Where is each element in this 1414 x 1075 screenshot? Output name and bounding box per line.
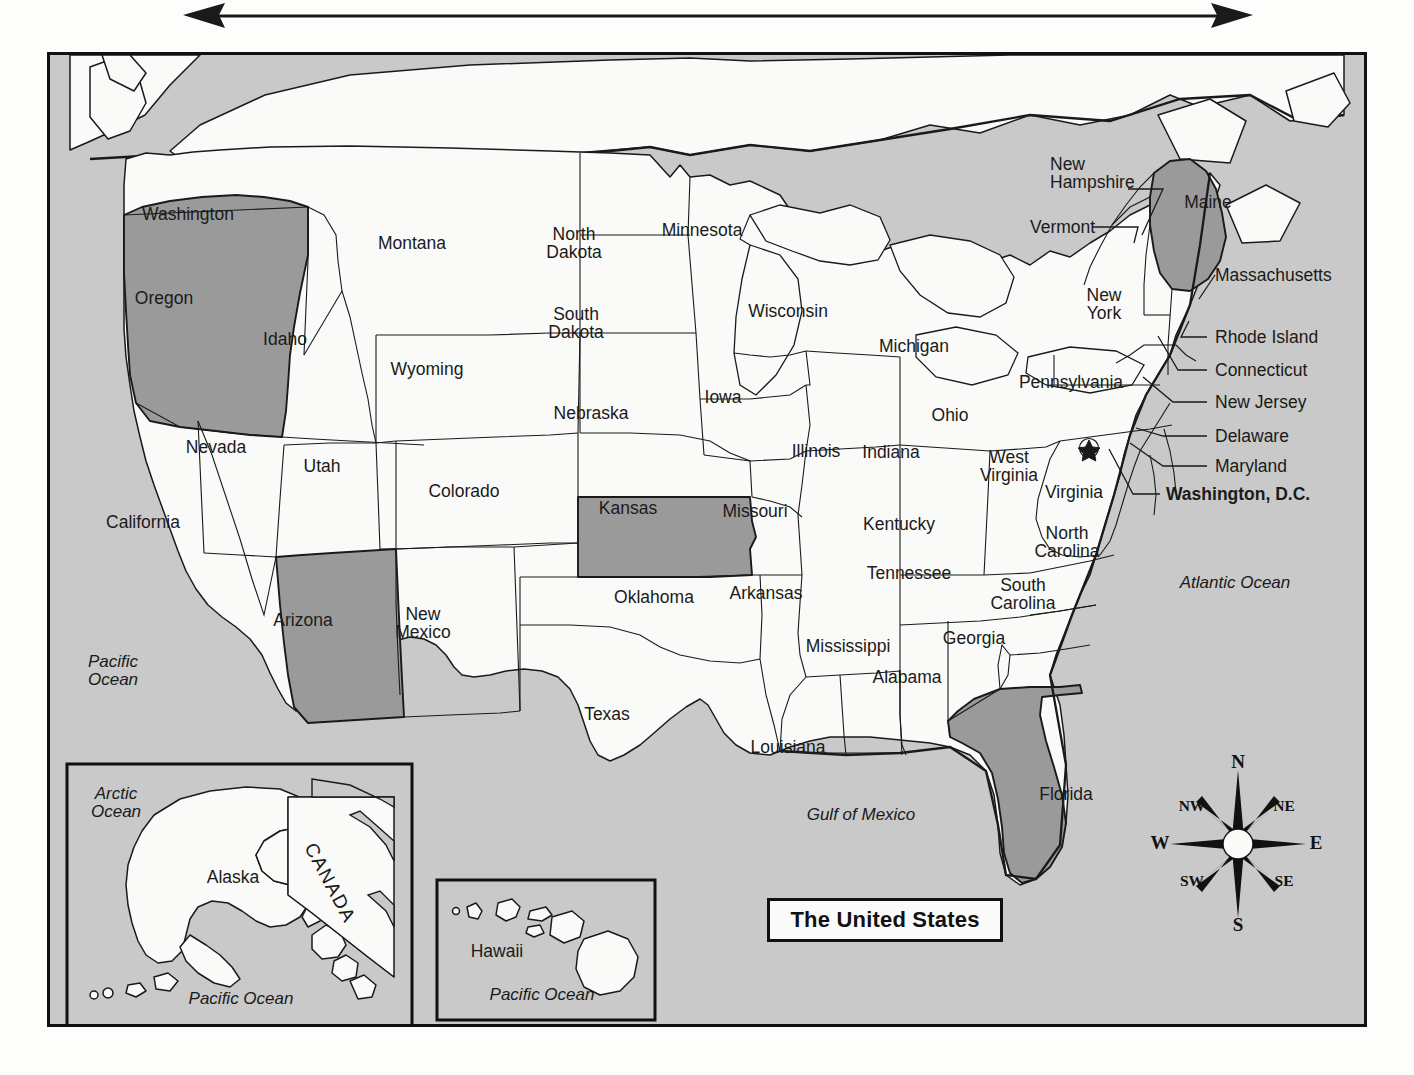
state-label-wyoming: Wyoming [391,360,464,378]
state-label-washington: Washington [142,205,234,223]
state-label-colorado: Colorado [428,482,499,500]
state-label-maine: Maine [1184,193,1232,211]
state-label-west-virginia: West Virginia [980,448,1038,484]
state-label-iowa: Iowa [705,388,742,406]
state-label-tennessee: Tennessee [867,564,952,582]
ocean-label-atlantic-ocean: Atlantic Ocean [1180,574,1291,592]
state-label-arizona: Arizona [273,611,332,629]
state-label-florida: Florida [1039,785,1093,803]
state-label-new-mexico: New Mexico [395,605,450,641]
state-label-mississippi: Mississippi [806,637,891,655]
state-label-utah: Utah [304,457,341,475]
state-label-california: California [106,513,180,531]
state-label-indiana: Indiana [862,443,919,461]
state-label-georgia: Georgia [943,629,1005,647]
callout-label-connecticut: Connecticut [1215,361,1307,379]
inset-label-pacific-ocean-label: Pacific Ocean [490,986,595,1004]
state-label-south-carolina: South Carolina [990,576,1055,612]
state-label-south-dakota: South Dakota [548,305,603,341]
state-label-louisiana: Louisiana [751,738,826,756]
inset-label-alaska-label: Alaska [207,868,260,886]
label-layer: WashingtonOregonCaliforniaIdahoNevadaUta… [50,55,1364,1024]
state-label-minnesota: Minnesota [662,221,743,239]
callout-label-maryland: Maryland [1215,457,1287,475]
state-label-montana: Montana [378,234,446,252]
callout-label-vermont: Vermont [1030,218,1095,236]
top-double-arrow [183,2,1253,36]
state-label-oklahoma: Oklahoma [614,588,694,606]
callout-label-delaware: Delaware [1215,427,1289,445]
state-label-michigan: Michigan [879,337,949,355]
inset-label-pacific-ocean-label: Pacific Ocean [189,990,294,1008]
state-label-new-york: New York [1086,286,1121,322]
ocean-label-gulf-of-mexico: Gulf of Mexico [807,806,916,824]
state-label-kentucky: Kentucky [863,515,935,533]
state-label-texas: Texas [584,705,630,723]
state-label-north-dakota: North Dakota [546,225,601,261]
state-label-north-carolina: North Carolina [1034,524,1099,560]
state-label-arkansas: Arkansas [730,584,803,602]
map-frame: .land{fill:#fafaf8;stroke:#1a1a1a;stroke… [47,52,1367,1027]
ocean-label-pacific-ocean-west: Pacific Ocean [88,653,138,688]
callout-label-washington-dc: Washington, D.C. [1166,485,1310,503]
callout-label-rhode-island: Rhode Island [1215,328,1318,346]
state-label-wisconsin: Wisconsin [748,302,828,320]
state-label-nevada: Nevada [186,438,246,456]
state-label-missouri: Missouri [722,502,787,520]
inset-label-arctic-ocean-label: Arctic Ocean [91,785,141,820]
state-label-nebraska: Nebraska [554,404,629,422]
callout-label-massachusetts: Massachusetts [1215,266,1332,284]
state-label-virginia: Virginia [1045,483,1103,501]
state-label-oregon: Oregon [135,289,193,307]
state-label-alabama: Alabama [872,668,941,686]
inset-label-hawaii-label: Hawaii [471,942,524,960]
callout-label-new-jersey: New Jersey [1215,393,1306,411]
state-label-pennsylvania: Pennsylvania [1019,373,1123,391]
callout-label-new-hampshire: New Hampshire [1050,155,1135,191]
state-label-illinois: Illinois [792,442,841,460]
state-label-ohio: Ohio [932,406,969,424]
state-label-kansas: Kansas [599,499,657,517]
state-label-idaho: Idaho [263,330,307,348]
inset-label-canada-label: CANADA [301,840,360,927]
